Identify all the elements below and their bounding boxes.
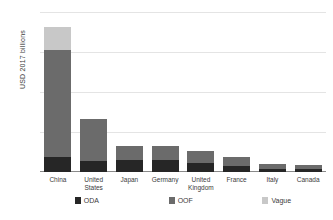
bar-group[interactable] <box>152 12 179 172</box>
bar-segment-vague[interactable] <box>44 27 71 50</box>
bar-segment-oda[interactable] <box>152 160 179 172</box>
x-axis-tick-label: Italy <box>255 176 291 198</box>
bar-segment-oda[interactable] <box>80 161 107 172</box>
legend-item[interactable]: OOF <box>169 197 193 204</box>
legend-label: ODA <box>84 197 99 204</box>
x-axis-tick-label: Canada <box>290 176 326 198</box>
legend-swatch-icon <box>75 197 81 204</box>
bar-series-container <box>40 12 326 172</box>
bar-segment-oda[interactable] <box>295 169 322 172</box>
x-axis-tick-label: China <box>40 176 76 198</box>
bar-segment-oda[interactable] <box>223 166 250 172</box>
bar-group[interactable] <box>80 12 107 172</box>
bar-group[interactable] <box>187 12 214 172</box>
bar-segment-oof[interactable] <box>187 151 214 163</box>
bar-segment-oda[interactable] <box>116 160 143 172</box>
bar-segment-oda[interactable] <box>44 157 71 172</box>
y-axis-title: USD 2017 billions <box>19 0 26 120</box>
bar-segment-oda[interactable] <box>259 169 286 172</box>
bar-group[interactable] <box>259 12 286 172</box>
legend-label: OOF <box>178 197 193 204</box>
bar-segment-oof[interactable] <box>152 146 179 159</box>
bar-group[interactable] <box>44 12 71 172</box>
x-axis-tick-label: France <box>219 176 255 198</box>
chart-legend: ODAOOFVague <box>40 197 326 204</box>
legend-swatch-icon <box>169 197 175 204</box>
bar-segment-oof[interactable] <box>80 119 107 161</box>
x-axis-tick-label: United Kingdom <box>183 176 219 198</box>
bar-segment-oof[interactable] <box>116 146 143 160</box>
bar-segment-oda[interactable] <box>187 163 214 172</box>
x-axis-labels: ChinaUnited StatesJapanGermanyUnited Kin… <box>40 176 326 198</box>
bar-group[interactable] <box>116 12 143 172</box>
legend-label: Vague <box>271 197 291 204</box>
bar-segment-oof[interactable] <box>44 50 71 157</box>
bar-group[interactable] <box>223 12 250 172</box>
x-axis-tick-label: Germany <box>147 176 183 198</box>
x-axis-tick-label: United States <box>76 176 112 198</box>
x-axis-tick-label: Japan <box>112 176 148 198</box>
stacked-bar-chart: USD 2017 billions $0$125$250$375$500 Chi… <box>0 0 333 220</box>
legend-item[interactable]: ODA <box>75 197 99 204</box>
bar-segment-oof[interactable] <box>223 157 250 166</box>
legend-item[interactable]: Vague <box>262 197 291 204</box>
legend-swatch-icon <box>262 197 268 204</box>
bar-group[interactable] <box>295 12 322 172</box>
plot-area: $0$125$250$375$500 <box>40 12 326 172</box>
